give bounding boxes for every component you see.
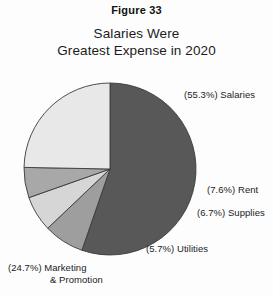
- slice-label-marketing-line-1: (24.7%) Marketing: [8, 262, 86, 273]
- slice-label-marketing: (24.7%) Marketing & Promotion: [8, 262, 103, 286]
- pie-slices-group: [24, 83, 196, 255]
- slice-label-salaries: (55.3%) Salaries: [184, 89, 255, 101]
- pie-slice-marketing-promotion: [24, 83, 110, 169]
- figure-container: Figure 33 Salaries Were Greatest Expense…: [0, 0, 273, 297]
- slice-label-utilities: (5.7%) Utilities: [146, 243, 208, 255]
- slice-label-rent: (7.6%) Rent: [207, 184, 258, 196]
- slice-label-marketing-line-2: & Promotion: [8, 274, 103, 286]
- pie-chart: [0, 0, 273, 297]
- slice-label-supplies: (6.7%) Supplies: [197, 207, 265, 219]
